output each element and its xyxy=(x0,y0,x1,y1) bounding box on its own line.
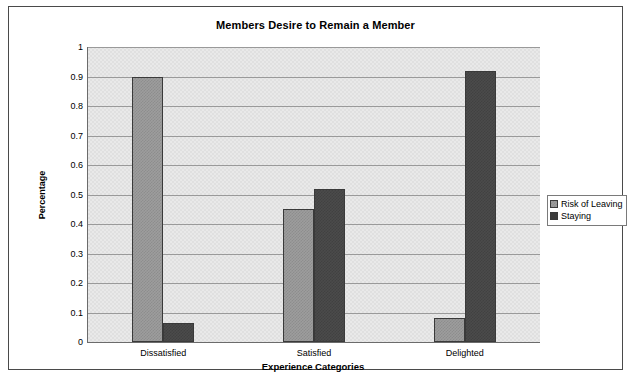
bar xyxy=(163,323,194,342)
bar xyxy=(465,71,496,342)
y-axis-tick-label: 0 xyxy=(78,337,83,347)
figure-frame: Members Desire to Remain a Member Percen… xyxy=(8,6,623,370)
legend-swatch xyxy=(550,212,558,220)
x-axis-tick-label: Satisfied xyxy=(297,348,332,358)
bar xyxy=(314,189,345,342)
x-axis-title: Experience Categories xyxy=(87,361,539,372)
y-axis-tick-label: 0.5 xyxy=(70,190,83,200)
bar-group: Satisfied xyxy=(239,47,390,342)
bar-group: Dissatisfied xyxy=(88,47,239,342)
bar xyxy=(132,77,163,343)
x-axis-tick-label: Dissatisfied xyxy=(140,348,186,358)
y-axis-title-label: Percentage xyxy=(37,170,47,219)
y-axis-tick-label: 1 xyxy=(78,42,83,52)
legend-label: Staying xyxy=(561,211,591,221)
y-axis-tick-label: 0.4 xyxy=(70,219,83,229)
bar xyxy=(434,318,465,342)
y-axis-tick-label: 0.3 xyxy=(70,249,83,259)
legend-item: Staying xyxy=(550,210,623,222)
legend-item: Risk of Leaving xyxy=(550,198,623,210)
y-axis-tick-label: 0.9 xyxy=(70,72,83,82)
y-axis-title: Percentage xyxy=(35,47,49,342)
y-axis-tick-label: 0.1 xyxy=(70,308,83,318)
bar-group: Delighted xyxy=(389,47,540,342)
y-axis-tick-label: 0.6 xyxy=(70,160,83,170)
y-axis-tick-label: 0.2 xyxy=(70,278,83,288)
bar xyxy=(283,209,314,342)
y-axis-tick-label: 0.8 xyxy=(70,101,83,111)
x-axis-tick-label: Delighted xyxy=(446,348,484,358)
legend-swatch xyxy=(550,200,558,208)
y-axis-tick-label: 0.7 xyxy=(70,131,83,141)
chart-legend: Risk of LeavingStaying xyxy=(547,195,627,226)
chart-title: Members Desire to Remain a Member xyxy=(9,19,622,31)
plot-area: 00.10.20.30.40.50.60.70.80.91Dissatisfie… xyxy=(87,47,540,343)
legend-label: Risk of Leaving xyxy=(561,199,623,209)
